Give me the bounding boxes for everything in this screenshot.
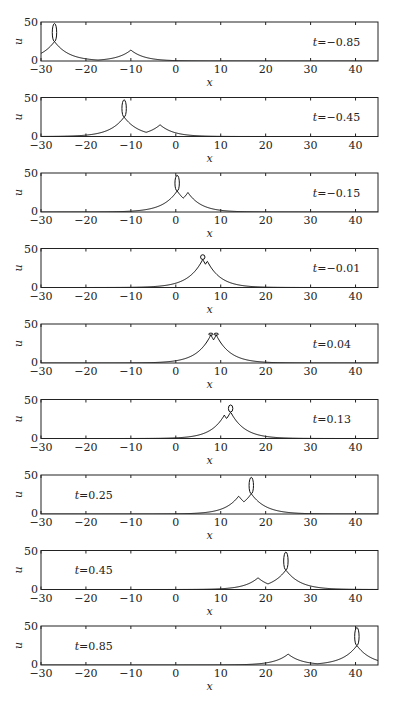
x-tick-label: 0 — [172, 516, 179, 529]
y-tick-label: 50 — [24, 243, 38, 256]
time-annotation: t=−0.01 — [313, 262, 360, 275]
x-tick-label: −20 — [74, 63, 97, 76]
panel-9: −30−20−10010203040500uxt=0.85 — [12, 620, 378, 693]
x-tick-label: −10 — [119, 63, 142, 76]
x-tick-label: 30 — [304, 365, 318, 378]
x-tick-label: 0 — [172, 441, 179, 454]
x-tick-label: 10 — [214, 516, 228, 529]
x-axis-label: x — [206, 605, 213, 618]
y-axis-label: u — [12, 566, 25, 573]
x-tick-label: 10 — [214, 592, 228, 605]
x-tick-label: 40 — [349, 441, 363, 454]
loop-soliton — [122, 100, 126, 117]
x-tick-label: 0 — [172, 63, 179, 76]
x-tick-label: 40 — [349, 214, 363, 227]
loop-soliton — [249, 477, 253, 493]
x-tick-label: −20 — [74, 214, 97, 227]
y-tick-label: 0 — [31, 356, 38, 369]
figure: −30−20−10010203040500uxt=−0.85−30−20−100… — [0, 0, 395, 703]
y-tick-label: 0 — [31, 54, 38, 67]
x-tick-label: 30 — [304, 63, 318, 76]
x-axis-label: x — [206, 227, 213, 240]
x-axis-label: x — [206, 529, 213, 542]
x-tick-label: 40 — [349, 667, 363, 680]
y-axis-label: u — [12, 113, 25, 120]
x-tick-label: 20 — [259, 592, 273, 605]
x-tick-label: −10 — [119, 139, 142, 152]
x-tick-label: 40 — [349, 63, 363, 76]
x-tick-label: 20 — [259, 290, 273, 303]
y-axis-label: u — [12, 415, 25, 422]
y-tick-label: 0 — [31, 583, 38, 596]
time-annotation: t=0.25 — [75, 489, 113, 502]
loop-soliton — [175, 175, 179, 191]
y-axis-label: u — [12, 642, 25, 649]
x-tick-label: 10 — [214, 290, 228, 303]
x-tick-label: 0 — [172, 214, 179, 227]
y-tick-label: 50 — [24, 167, 38, 180]
y-tick-label: 50 — [24, 92, 38, 105]
x-tick-label: −10 — [119, 365, 142, 378]
panel-1: −30−20−10010203040500uxt=−0.85 — [12, 16, 378, 89]
y-axis-label: u — [12, 340, 25, 347]
x-tick-label: −10 — [119, 441, 142, 454]
x-axis-label: x — [206, 152, 213, 165]
x-tick-label: −20 — [74, 290, 97, 303]
y-tick-label: 0 — [31, 658, 38, 671]
y-tick-label: 50 — [24, 318, 38, 331]
x-tick-label: −20 — [74, 516, 97, 529]
x-tick-label: 10 — [214, 667, 228, 680]
x-tick-label: −10 — [119, 290, 142, 303]
x-tick-label: −20 — [74, 365, 97, 378]
y-tick-label: 0 — [31, 130, 38, 143]
y-tick-label: 0 — [31, 281, 38, 294]
time-annotation: t=0.13 — [313, 413, 351, 426]
x-tick-label: 20 — [259, 139, 273, 152]
x-tick-label: −10 — [119, 516, 142, 529]
x-tick-label: 30 — [304, 592, 318, 605]
panel-6: −30−20−10010203040500uxt=0.13 — [12, 394, 378, 467]
x-tick-label: −10 — [119, 214, 142, 227]
x-tick-label: 10 — [214, 365, 228, 378]
x-tick-label: 40 — [349, 139, 363, 152]
loop-soliton — [284, 552, 288, 570]
x-tick-label: 0 — [172, 667, 179, 680]
panel-7: −30−20−10010203040500uxt=0.25 — [12, 469, 378, 542]
x-tick-label: 30 — [304, 290, 318, 303]
x-tick-label: 0 — [172, 592, 179, 605]
x-tick-label: 30 — [304, 667, 318, 680]
panel-3: −30−20−10010203040500uxt=−0.15 — [12, 167, 378, 240]
x-tick-label: 10 — [214, 139, 228, 152]
x-tick-label: 40 — [349, 592, 363, 605]
x-axis-label: x — [206, 680, 213, 693]
y-axis-label: u — [12, 491, 25, 498]
y-tick-label: 50 — [24, 16, 38, 29]
x-tick-label: −20 — [74, 139, 97, 152]
y-tick-label: 50 — [24, 469, 38, 482]
x-tick-label: −20 — [74, 441, 97, 454]
loop-soliton — [52, 24, 56, 42]
x-tick-label: 20 — [259, 63, 273, 76]
x-axis-label: x — [206, 378, 213, 391]
panel-5: −30−20−10010203040500uxt=0.04 — [12, 318, 378, 391]
time-annotation: t=0.04 — [313, 338, 351, 351]
x-tick-label: 40 — [349, 516, 363, 529]
x-tick-label: 20 — [259, 214, 273, 227]
x-tick-label: 40 — [349, 365, 363, 378]
x-tick-label: 20 — [259, 441, 273, 454]
y-axis-label: u — [12, 264, 25, 271]
y-tick-label: 50 — [24, 545, 38, 558]
x-tick-label: −10 — [119, 592, 142, 605]
time-annotation: t=−0.45 — [313, 111, 360, 124]
x-tick-label: 30 — [304, 214, 318, 227]
x-tick-label: −10 — [119, 667, 142, 680]
panel-4: −30−20−10010203040500uxt=−0.01 — [12, 243, 378, 316]
x-tick-label: 20 — [259, 667, 273, 680]
x-tick-label: 0 — [172, 290, 179, 303]
y-tick-label: 0 — [31, 205, 38, 218]
x-tick-label: 10 — [214, 63, 228, 76]
x-axis-label: x — [206, 76, 213, 89]
y-tick-label: 50 — [24, 620, 38, 633]
x-axis-label: x — [206, 303, 213, 316]
x-tick-label: 0 — [172, 365, 179, 378]
